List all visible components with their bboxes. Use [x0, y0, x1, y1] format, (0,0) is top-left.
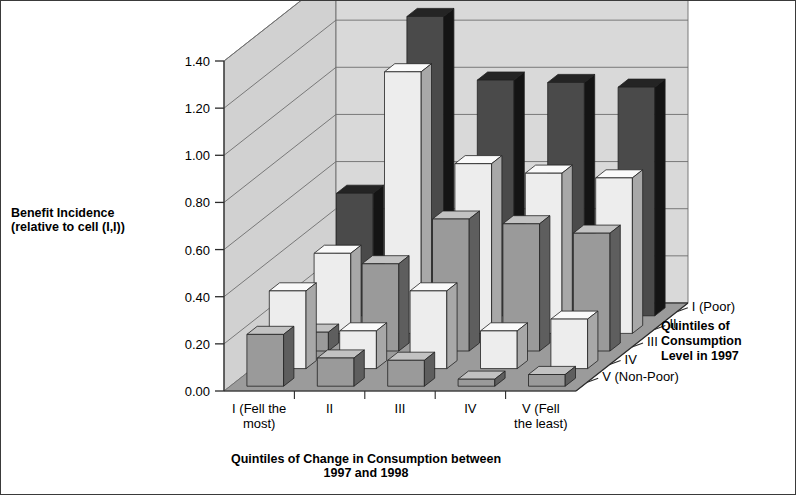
bar-IV-col5 — [551, 311, 598, 369]
bar-front-face — [529, 375, 566, 387]
bar-side-face — [562, 165, 572, 333]
y-axis-title: Benefit Incidence (relative to cell (I,I… — [11, 206, 171, 234]
z-axis-title-line1: Quintiles of — [661, 319, 791, 334]
bar-II-col1 — [314, 245, 361, 333]
bar-VNonPoor-col1 — [247, 326, 294, 386]
z-axis-tick-label: IV — [625, 352, 638, 367]
bar-front-face — [314, 253, 351, 333]
z-axis-tick-label: V (Non-Poor) — [602, 369, 679, 384]
bar-side-face — [517, 323, 527, 369]
y-axis-tick-label: 0.80 — [185, 195, 210, 210]
x-axis-title-line2: 1997 and 1998 — [151, 466, 581, 480]
y-axis-tick-label: 0.20 — [185, 337, 210, 352]
bar-VNonPoor-col2 — [317, 350, 364, 386]
bar-front-face — [551, 319, 588, 369]
bar-side-face — [447, 283, 457, 369]
y-axis-tick-label: 0.40 — [185, 290, 210, 305]
three-d-bar-chart: 0.000.200.400.600.801.001.201.40I (Fell … — [1, 1, 796, 495]
bar-VNonPoor-col5 — [529, 366, 576, 386]
chart-figure: 0.000.200.400.600.801.001.201.40I (Fell … — [0, 0, 796, 495]
y-axis-title-line2: (relative to cell (I,I)) — [11, 220, 171, 234]
bar-side-face — [492, 156, 502, 334]
bar-VNonPoor-col3 — [388, 352, 435, 386]
bar-side-face — [376, 323, 386, 369]
z-axis-tick-label: III — [647, 334, 658, 349]
y-axis-title-line1: Benefit Incidence — [11, 206, 171, 220]
bar-side-face — [632, 170, 642, 334]
x-axis-tick-label: III — [395, 401, 406, 416]
x-axis-tick-label: I (Fell the — [232, 401, 286, 416]
z-axis-title-line3: Level in 1997 — [661, 349, 791, 364]
z-axis-tick-label: I (Poor) — [692, 299, 735, 314]
bar-side-face — [588, 311, 598, 369]
y-axis-tick-label: 1.40 — [185, 54, 210, 69]
bar-side-face — [655, 79, 665, 316]
bar-front-face — [247, 334, 284, 386]
bar-side-face — [399, 256, 409, 351]
x-axis-tick-label-2: the least) — [514, 416, 567, 431]
bar-front-face — [458, 379, 495, 386]
bar-side-face — [306, 283, 316, 369]
x-axis-tick-label: II — [326, 401, 333, 416]
bar-front-face — [388, 360, 425, 386]
x-axis-tick-label: V (Fell — [522, 401, 560, 416]
bar-side-face — [610, 225, 620, 351]
bar-IV-col4 — [481, 323, 528, 369]
bar-side-face — [284, 326, 294, 386]
bar-side-face — [469, 211, 479, 351]
x-axis-title-line1: Quintiles of Change in Consumption betwe… — [151, 452, 581, 466]
y-axis-tick-label: 0.00 — [185, 384, 210, 399]
z-axis-title-line2: Consumption — [661, 334, 791, 349]
bar-front-face — [317, 358, 354, 386]
y-axis-tick-label: 1.00 — [185, 148, 210, 163]
x-axis-title: Quintiles of Change in Consumption betwe… — [151, 452, 581, 480]
y-axis-tick-label: 1.20 — [185, 101, 210, 116]
bar-side-face — [351, 245, 361, 333]
x-axis-tick-label-2: most) — [243, 416, 276, 431]
y-axis-tick-label: 0.60 — [185, 243, 210, 258]
bar-front-face — [481, 331, 518, 369]
z-axis-title: Quintiles of Consumption Level in 1997 — [661, 319, 791, 364]
bar-VNonPoor-col4 — [458, 371, 505, 386]
x-axis-tick-label: IV — [464, 401, 477, 416]
bar-side-face — [540, 216, 550, 351]
